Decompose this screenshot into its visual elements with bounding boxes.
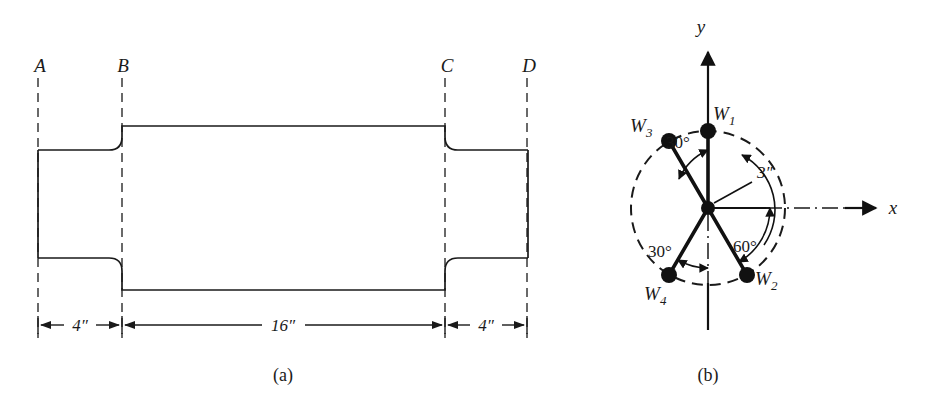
angle-label-w3-y: 30° — [666, 133, 690, 152]
weight-marker-w4 — [661, 267, 677, 283]
dimension-label-middle: 16″ — [271, 316, 296, 335]
weight-label-w1-sub: 1 — [729, 113, 736, 128]
dimension-label-left: 4″ — [72, 316, 89, 335]
weight-label-w2: W 2 — [755, 268, 778, 293]
dimension-right: 4″ — [445, 316, 527, 335]
angle-label-x-w2: 60° — [733, 237, 757, 256]
station-label-a: A — [32, 55, 46, 76]
radius-leader-line — [714, 182, 752, 203]
dimension-left: 4″ — [38, 316, 122, 335]
weight-label-w4-sub: 4 — [660, 293, 667, 308]
y-axis-label: y — [695, 16, 706, 37]
caption-b: (b) — [698, 365, 719, 386]
weight-label-w3-sub: 3 — [645, 125, 653, 140]
station-label-b: B — [117, 55, 129, 76]
weight-label-w3: W 3 — [630, 115, 653, 140]
station-label-d: D — [521, 55, 536, 76]
weight-label-w2-sub: 2 — [771, 278, 778, 293]
caption-a: (a) — [273, 365, 293, 386]
radius-label: 3″ — [756, 163, 774, 182]
weight-label-w4: W 4 — [644, 283, 667, 308]
figure-svg: A B C D 4″ 16″ — [0, 0, 933, 403]
angle-label-w4-y: 30° — [648, 242, 672, 261]
weight-label-w1: W 1 — [713, 103, 736, 128]
dimension-middle: 16″ — [125, 316, 442, 335]
weight-marker-w1 — [700, 123, 716, 139]
dimension-label-right: 4″ — [478, 316, 495, 335]
x-axis-label: x — [888, 197, 898, 218]
station-label-c: C — [441, 55, 454, 76]
weight-marker-w2 — [739, 267, 755, 283]
panel-b: 3″ 30° 60° 30° y x W 1 W 2 — [630, 16, 898, 386]
shaft-outline-upper — [38, 126, 528, 150]
shaft-center-hub — [701, 201, 715, 215]
figure-container: A B C D 4″ 16″ — [0, 0, 933, 403]
panel-a: A B C D 4″ 16″ — [32, 55, 536, 386]
shaft-outline-lower — [38, 258, 528, 290]
angle-arc-w4-y — [678, 260, 708, 268]
